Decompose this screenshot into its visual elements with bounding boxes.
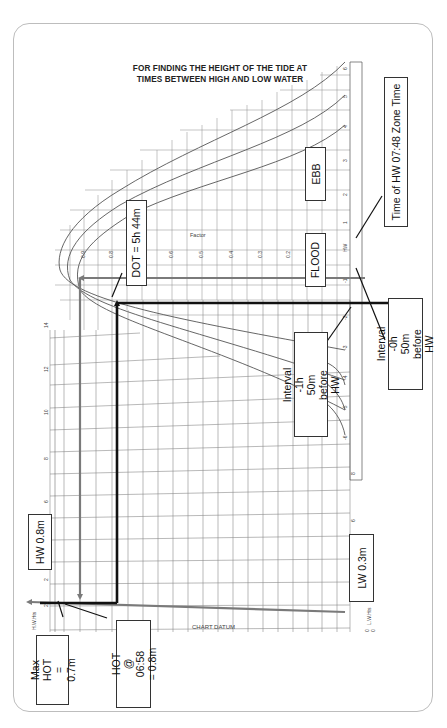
svg-text:HW: HW — [342, 243, 348, 252]
svg-text:12: 12 — [43, 366, 49, 372]
interval-1h50-box: Interval -1h 50m before HW — [294, 332, 328, 437]
time-of-hw-box: Time of HW 07:48 Zone Time — [384, 77, 408, 227]
svg-text:8: 8 — [43, 457, 49, 460]
svg-text:10: 10 — [43, 409, 49, 415]
svg-text:2: 2 — [43, 604, 49, 607]
interval-0h50-box: Interval -0h 50m before HW — [388, 298, 423, 390]
svg-text:0.6: 0.6 — [168, 251, 174, 258]
svg-text:8: 8 — [350, 472, 356, 475]
svg-text:0.8: 0.8 — [108, 251, 114, 258]
svg-text:0: 0 — [370, 629, 376, 632]
flood-label-box: FLOOD — [305, 233, 326, 287]
ebb-label-box: EBB — [305, 147, 326, 201]
svg-text:1: 1 — [342, 221, 348, 224]
lw-height-box: LW 0.3m — [349, 534, 374, 602]
dot-label-box: DOT = 5h 44m — [126, 200, 147, 286]
tidal-curve-chart: 2 6 8 10 12 14 2 H.W.Hts 0 0 L.W.Hts — [0, 0, 447, 728]
svg-text:14: 14 — [43, 322, 49, 328]
svg-text:0.3: 0.3 — [257, 251, 263, 258]
svg-text:H.W.Hts: H.W.Hts — [31, 611, 37, 630]
svg-text:6: 6 — [43, 500, 49, 503]
svg-text:2: 2 — [43, 578, 49, 581]
hw-height-box: HW 0.8m — [28, 514, 52, 570]
pointer-arrows — [58, 196, 385, 618]
chart-datum-label: CHART DATUM — [192, 624, 235, 630]
svg-text:3: 3 — [342, 159, 348, 162]
svg-text:6: 6 — [342, 67, 348, 70]
svg-text:6: 6 — [350, 519, 356, 522]
factor-label: Factor — [190, 232, 206, 238]
svg-text:0.5: 0.5 — [198, 251, 204, 258]
svg-text:2: 2 — [342, 193, 348, 196]
svg-text:0.4: 0.4 — [228, 251, 234, 258]
svg-text:-6: -6 — [342, 435, 348, 440]
hour-axis — [350, 62, 362, 480]
svg-text:0.2: 0.2 — [285, 251, 291, 258]
hot-box: HOT @ 06:58 = 0.8m — [116, 620, 151, 708]
max-hot-box: Max HOT = 0.7m — [36, 635, 69, 705]
svg-text:L.W.Hts: L.W.Hts — [366, 607, 372, 625]
